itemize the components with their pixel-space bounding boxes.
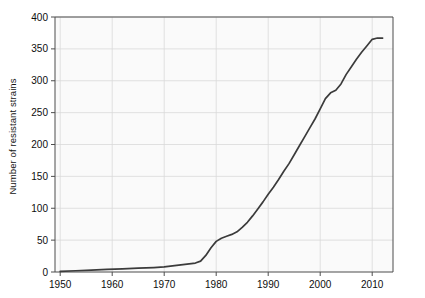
svg-text:0: 0 xyxy=(42,267,48,278)
svg-text:2010: 2010 xyxy=(361,279,384,290)
svg-text:1960: 1960 xyxy=(101,279,124,290)
svg-text:250: 250 xyxy=(31,107,48,118)
plot-area-container: 050100150200250300350400 195019601970198… xyxy=(0,0,425,298)
svg-text:1980: 1980 xyxy=(205,279,228,290)
chart-figure: Number of resistant strains 050100150200… xyxy=(0,0,425,298)
svg-text:50: 50 xyxy=(37,235,49,246)
svg-text:350: 350 xyxy=(31,43,48,54)
x-tick-marks xyxy=(60,272,372,276)
svg-text:1950: 1950 xyxy=(49,279,72,290)
chart-svg: 050100150200250300350400 195019601970198… xyxy=(0,0,425,298)
svg-text:200: 200 xyxy=(31,139,48,150)
svg-text:100: 100 xyxy=(31,203,48,214)
svg-text:2000: 2000 xyxy=(309,279,332,290)
svg-text:1970: 1970 xyxy=(153,279,176,290)
svg-text:300: 300 xyxy=(31,75,48,86)
x-tick-labels: 1950196019701980199020002010 xyxy=(49,279,384,290)
svg-text:150: 150 xyxy=(31,171,48,182)
y-tick-marks xyxy=(51,17,55,272)
svg-text:400: 400 xyxy=(31,12,48,23)
svg-text:1990: 1990 xyxy=(257,279,280,290)
y-tick-labels: 050100150200250300350400 xyxy=(31,12,48,278)
